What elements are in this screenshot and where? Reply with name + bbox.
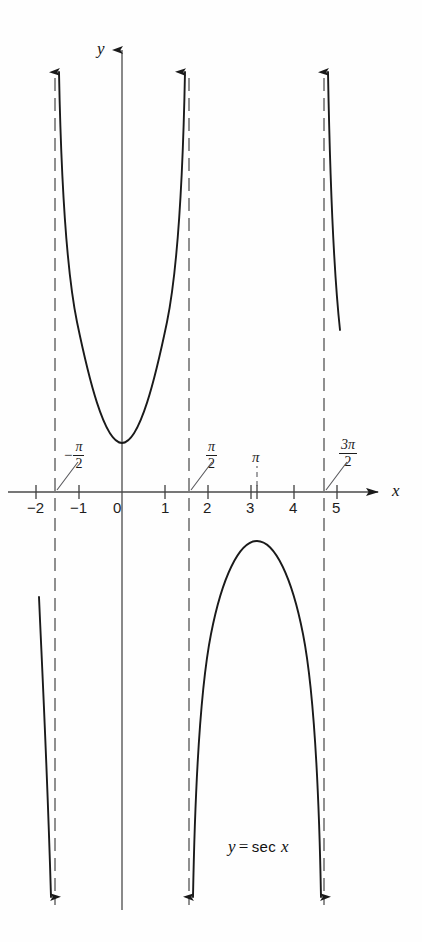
curve-branch-right-partial	[328, 72, 340, 330]
y-axis-label: y	[97, 40, 105, 57]
fraction-numerator: 3π	[339, 438, 357, 454]
x-tick-label--1: −1	[70, 500, 87, 515]
minus-sign: −	[64, 448, 73, 463]
equation-argument: x	[276, 837, 289, 856]
x-tick-label-4: 4	[289, 500, 297, 515]
plot-canvas	[0, 0, 422, 942]
curve-branch-left-partial	[39, 597, 51, 897]
x-tick-label-1: 1	[161, 500, 169, 515]
sec-x-graph-figure: y x −2 −1 0 1 2 3 4 5 − π 2 π 2 π 3π 2	[0, 0, 422, 942]
asymptote-label-half-pi: π 2	[206, 440, 217, 471]
pi-label: π	[252, 450, 260, 465]
x-tick-label-3: 3	[246, 500, 254, 515]
fraction-denominator: 2	[206, 456, 217, 471]
x-tick-label-2: 2	[203, 500, 211, 515]
label-leader-lines	[57, 462, 347, 490]
fraction-numerator: π	[206, 440, 217, 456]
x-tick-label-0: 0	[113, 500, 121, 515]
asymptote-label-three-half-pi: 3π 2	[339, 438, 357, 469]
x-tick-label-5: 5	[332, 500, 340, 515]
x-axis-label: x	[392, 482, 400, 499]
equation-label: y=secx	[228, 838, 289, 855]
x-tick-label--2: −2	[27, 500, 44, 515]
fraction-denominator: 2	[339, 454, 357, 469]
equation-lhs: y	[228, 837, 236, 856]
equation-operator: =	[236, 837, 252, 856]
equation-function: sec	[252, 838, 276, 855]
fraction-denominator: 2	[73, 456, 84, 471]
fraction-numerator: π	[73, 440, 84, 456]
asymptote-label-neg-half-pi: − π 2	[64, 440, 84, 471]
